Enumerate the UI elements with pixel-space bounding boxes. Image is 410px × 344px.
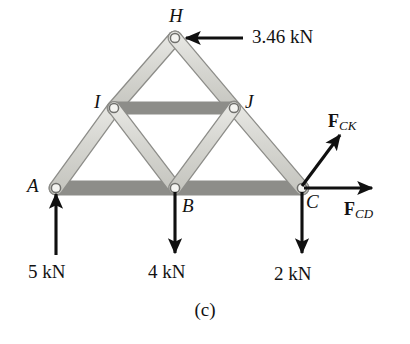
joint-B xyxy=(170,183,179,192)
member-AI xyxy=(56,108,114,188)
member-JB xyxy=(175,108,234,188)
node-label-J: J xyxy=(245,92,253,111)
reaction-label-A: 5 kN xyxy=(28,262,65,281)
load-label-C: 2 kN xyxy=(274,264,311,283)
joint-J xyxy=(229,103,238,112)
member-IB xyxy=(114,108,175,188)
joint-H xyxy=(170,33,179,42)
force-subscript-FCK: CK xyxy=(339,118,357,133)
figure-caption: (c) xyxy=(0,300,410,319)
member-IH xyxy=(114,38,175,108)
truss-figure: H I J A B C 3.46 kN 5 kN 4 kN 2 kN FCK F… xyxy=(0,0,410,344)
force-symbol-FCK: F xyxy=(328,111,339,131)
joint-A xyxy=(51,183,60,192)
node-label-I: I xyxy=(94,92,100,111)
member-HJ xyxy=(175,38,234,108)
member-JC xyxy=(234,108,302,188)
force-arrow-FCK xyxy=(302,135,340,186)
truss-diagram-canvas xyxy=(0,0,410,344)
node-label-A: A xyxy=(27,176,39,195)
load-label-B: 4 kN xyxy=(148,262,185,281)
force-symbol-FCD: F xyxy=(344,199,355,219)
node-label-B: B xyxy=(182,196,194,215)
node-label-C: C xyxy=(306,192,319,211)
force-label-FCD: FCD xyxy=(344,200,373,220)
force-subscript-FCD: CD xyxy=(355,206,373,221)
load-label-H: 3.46 kN xyxy=(252,27,313,46)
truss-members xyxy=(56,38,302,188)
joint-I xyxy=(109,103,118,112)
node-label-H: H xyxy=(169,6,183,25)
force-label-FCK: FCK xyxy=(328,112,357,132)
